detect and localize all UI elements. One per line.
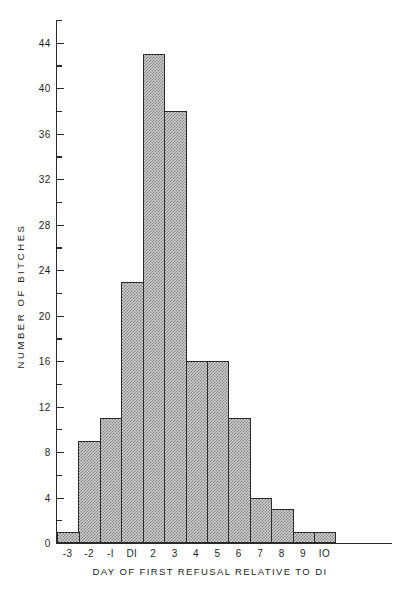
- y-tick-minor: [56, 202, 62, 203]
- x-tick-label: 7: [257, 548, 263, 559]
- x-tick-label: IO: [319, 548, 331, 559]
- x-tick-label: -I: [107, 548, 114, 559]
- y-tick-label: 24: [39, 265, 51, 276]
- histogram-bar: [185, 361, 208, 543]
- y-tick-label: 16: [39, 356, 51, 367]
- y-tick-label: 12: [39, 401, 51, 412]
- y-tick-minor: [56, 293, 62, 294]
- y-tick-major: [56, 316, 64, 317]
- y-tick-major: [56, 225, 64, 226]
- y-tick-major: [56, 43, 64, 44]
- y-tick-minor: [56, 65, 62, 66]
- y-tick-minor: [56, 247, 62, 248]
- y-tick-major: [56, 361, 64, 362]
- histogram-bar: [271, 509, 294, 543]
- y-tick-major: [56, 543, 64, 544]
- histogram-bar: [228, 418, 251, 543]
- y-tick-major: [56, 88, 64, 89]
- x-axis-title: DAY OF FIRST REFUSAL RELATIVE TO DI: [40, 566, 380, 577]
- histogram-bar: [57, 532, 80, 543]
- x-tick-label: 2: [150, 548, 156, 559]
- plot-area: 048121620242832364044 -3-2-IDI23456789IO: [56, 20, 392, 550]
- y-tick-label: 36: [39, 128, 51, 139]
- x-tick-label: 4: [193, 548, 199, 559]
- y-tick-major: [56, 179, 64, 180]
- y-tick-label: 32: [39, 174, 51, 185]
- histogram-bar: [121, 282, 144, 544]
- x-tick-label: 3: [172, 548, 178, 559]
- histogram-bar: [314, 532, 337, 543]
- y-tick-minor: [56, 156, 62, 157]
- y-tick-minor: [56, 338, 62, 339]
- y-tick-minor: [56, 520, 62, 521]
- y-axis-title: NUMBER OF BITCHES: [10, 196, 30, 396]
- histogram-bar: [250, 498, 273, 543]
- x-tick-label: -2: [84, 548, 94, 559]
- y-tick-major: [56, 407, 64, 408]
- y-tick-label: 0: [45, 538, 51, 549]
- y-tick-major: [56, 270, 64, 271]
- y-tick-minor: [56, 384, 62, 385]
- y-tick-label: 40: [39, 83, 51, 94]
- histogram-bar: [292, 532, 315, 543]
- x-axis-line: [56, 543, 392, 544]
- y-tick-major: [56, 498, 64, 499]
- x-tick-label: -3: [63, 548, 73, 559]
- histogram-figure: NUMBER OF BITCHES DAY OF FIRST REFUSAL R…: [0, 0, 416, 594]
- y-tick-label: 28: [39, 219, 51, 230]
- y-axis-title-text: NUMBER OF BITCHES: [15, 223, 26, 368]
- y-tick-major: [56, 134, 64, 135]
- y-tick-major: [56, 452, 64, 453]
- histogram-bar: [78, 441, 101, 543]
- x-tick-label: 6: [236, 548, 242, 559]
- x-tick-label: DI: [126, 548, 137, 559]
- y-tick-minor: [56, 111, 62, 112]
- y-tick-label: 20: [39, 310, 51, 321]
- y-tick-label: 44: [39, 37, 51, 48]
- x-tick-label: 5: [214, 548, 220, 559]
- y-tick-label: 8: [45, 447, 51, 458]
- x-tick-label: 8: [279, 548, 285, 559]
- y-tick-minor: [56, 475, 62, 476]
- y-tick-minor: [56, 429, 62, 430]
- histogram-bar: [143, 54, 166, 543]
- y-tick-minor: [56, 20, 62, 21]
- histogram-bar: [100, 418, 123, 543]
- histogram-bar: [207, 361, 230, 543]
- x-tick-label: 9: [300, 548, 306, 559]
- y-tick-label: 4: [45, 492, 51, 503]
- y-axis-line: [56, 20, 57, 544]
- histogram-bar: [164, 111, 187, 543]
